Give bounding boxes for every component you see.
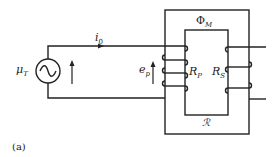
primary-bottom-wire	[48, 83, 165, 98]
flux-label: ΦM	[196, 15, 212, 29]
emf-label: ep	[139, 64, 150, 78]
secondary-resistance-label: RS	[212, 66, 225, 80]
panel-label: (a)	[12, 142, 26, 152]
transformer-circuit-diagram	[0, 0, 279, 157]
source-label: μT	[16, 64, 28, 78]
sine-wave-icon	[40, 66, 56, 77]
primary-resistance-label: RP	[189, 66, 202, 80]
current-label: i0	[95, 32, 103, 46]
secondary-winding	[226, 47, 266, 99]
reluctance-label: ℛ	[202, 118, 210, 128]
primary-winding	[163, 46, 188, 91]
